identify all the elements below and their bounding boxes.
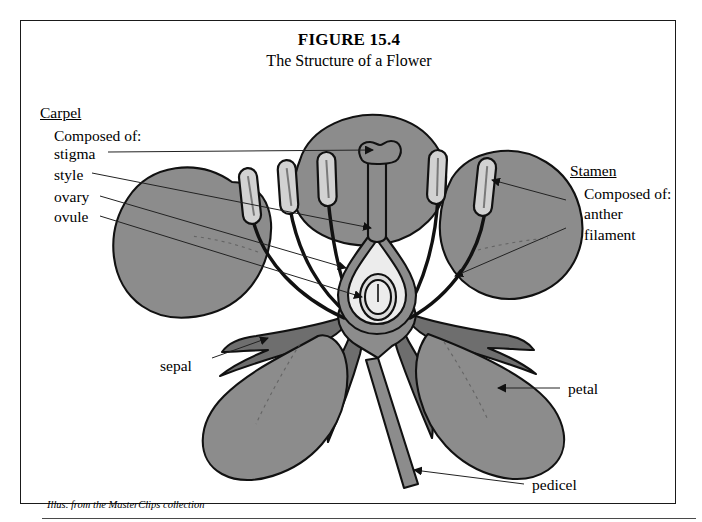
figure-number: FIGURE 15.4 [21, 29, 677, 51]
label-carpel-composed: Composed of: [54, 128, 141, 144]
figure-frame: FIGURE 15.4 The Structure of a Flower Il… [20, 20, 676, 504]
label-ovary: ovary [54, 189, 89, 205]
label-stamen-heading: Stamen [570, 163, 617, 179]
label-anther: anther [584, 206, 623, 222]
figure-subtitle: The Structure of a Flower [21, 51, 677, 71]
label-pedicel: pedicel [532, 477, 577, 493]
footer-divider [42, 518, 696, 519]
label-carpel-heading: Carpel [40, 105, 81, 121]
label-petal: petal [568, 381, 598, 397]
label-stigma: stigma [54, 146, 95, 162]
label-sepal: sepal [160, 358, 192, 374]
label-ovule: ovule [54, 209, 88, 225]
attribution-text: Illus. from the MasterClips collection [47, 499, 204, 510]
label-stamen-composed: Composed of: [584, 186, 671, 202]
label-filament: filament [584, 227, 636, 243]
title-block: FIGURE 15.4 The Structure of a Flower [21, 29, 677, 71]
figure-page: FIGURE 15.4 The Structure of a Flower Il… [0, 0, 702, 522]
label-style: style [54, 167, 83, 183]
